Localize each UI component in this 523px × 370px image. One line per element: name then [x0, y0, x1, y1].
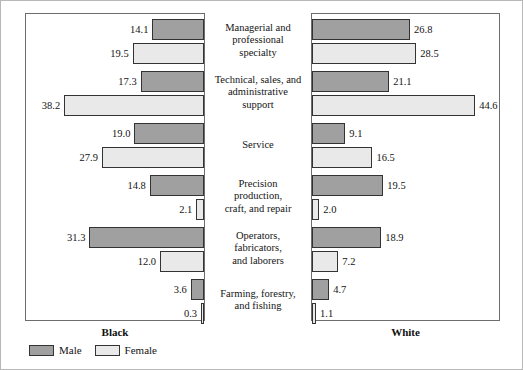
value-label-black-female-3: 38.2 [42, 95, 60, 116]
value-label-black-male-4: 19.0 [112, 123, 130, 144]
value-label-white-female-5: 16.5 [376, 147, 394, 168]
category-label-4-line-2: and laborers [205, 255, 311, 267]
bar-black-male-2 [141, 71, 204, 92]
category-label-1-line-0: Technical, sales, and [205, 74, 311, 86]
category-label-0-line-2: specialty [205, 47, 311, 59]
category-label-2: Service [205, 139, 311, 151]
bar-white-male-6 [312, 175, 383, 196]
bar-black-male-0 [152, 19, 204, 40]
panel-black: 14.119.517.338.219.027.914.82.131.312.03… [25, 13, 205, 321]
value-label-white-female-11: 1.1 [320, 303, 333, 324]
value-label-white-female-1: 28.5 [420, 43, 438, 64]
group-title-white: White [311, 326, 500, 338]
value-label-white-female-3: 44.6 [479, 95, 497, 116]
value-label-black-male-2: 17.3 [118, 71, 136, 92]
category-label-2-line-0: Service [205, 139, 311, 151]
bar-white-male-10 [312, 279, 329, 300]
value-label-black-female-11: 0.3 [184, 303, 197, 324]
category-label-0: Managerial andprofessionalspecialty [205, 22, 311, 59]
legend-item-male: Male [29, 344, 82, 356]
legend-label-male: Male [59, 344, 82, 356]
value-label-black-male-8: 31.3 [67, 227, 85, 248]
legend-swatch-female [95, 345, 120, 356]
category-label-5-line-1: and fishing [205, 300, 311, 312]
legend: Male Female [29, 344, 157, 356]
bar-black-female-7 [196, 199, 204, 220]
value-label-white-male-0: 26.8 [414, 19, 432, 40]
category-label-4-line-0: Operators, [205, 230, 311, 242]
value-label-black-male-6: 14.8 [127, 175, 145, 196]
bar-black-male-4 [134, 123, 204, 144]
category-label-4: Operators,fabricators,and laborers [205, 230, 311, 267]
group-title-black: Black [25, 326, 205, 338]
value-label-black-female-7: 2.1 [179, 199, 192, 220]
bar-white-female-7 [312, 199, 319, 220]
bar-black-female-9 [160, 251, 204, 272]
value-label-white-male-4: 9.1 [349, 123, 362, 144]
legend-swatch-male [29, 345, 54, 356]
bar-black-male-8 [89, 227, 204, 248]
panel-white: 26.828.521.144.69.116.519.52.018.97.24.7… [311, 13, 500, 321]
plot-area-black: 14.119.517.338.219.027.914.82.131.312.03… [26, 14, 204, 320]
value-label-black-male-0: 14.1 [130, 19, 148, 40]
bar-white-male-2 [312, 71, 389, 92]
chart-figure: 14.119.517.338.219.027.914.82.131.312.03… [0, 0, 523, 370]
value-label-black-female-5: 27.9 [80, 147, 98, 168]
bar-black-female-3 [64, 95, 204, 116]
category-label-1-line-2: support [205, 99, 311, 111]
legend-label-female: Female [125, 344, 157, 356]
value-label-black-female-9: 12.0 [138, 251, 156, 272]
bar-black-female-5 [102, 147, 204, 168]
bar-black-female-1 [133, 43, 204, 64]
bar-black-male-6 [150, 175, 204, 196]
bar-black-male-10 [191, 279, 204, 300]
category-label-5: Farming, forestry,and fishing [205, 288, 311, 313]
bar-black-female-11 [201, 303, 204, 324]
bar-white-male-4 [312, 123, 345, 144]
category-label-3: Precisionproduction,craft, and repair [205, 178, 311, 215]
category-label-1: Technical, sales, andadministrativesuppo… [205, 74, 311, 111]
value-label-white-male-8: 18.9 [385, 227, 403, 248]
category-label-0-line-0: Managerial and [205, 22, 311, 34]
bar-white-female-11 [312, 303, 316, 324]
value-label-black-male-10: 3.6 [174, 279, 187, 300]
value-label-white-male-10: 4.7 [333, 279, 346, 300]
category-label-column: Managerial andprofessionalspecialtyTechn… [205, 13, 311, 321]
value-label-white-male-2: 21.1 [393, 71, 411, 92]
category-label-5-line-0: Farming, forestry, [205, 288, 311, 300]
value-label-white-female-9: 7.2 [342, 251, 355, 272]
value-label-white-female-7: 2.0 [323, 199, 336, 220]
category-label-0-line-1: professional [205, 34, 311, 46]
value-label-white-male-6: 19.5 [387, 175, 405, 196]
bar-white-female-5 [312, 147, 372, 168]
category-label-4-line-1: fabricators, [205, 242, 311, 254]
bar-white-male-0 [312, 19, 410, 40]
category-label-3-line-2: craft, and repair [205, 203, 311, 215]
category-label-3-line-1: production, [205, 190, 311, 202]
bar-white-male-8 [312, 227, 381, 248]
bar-white-female-9 [312, 251, 338, 272]
legend-item-female: Female [95, 344, 157, 356]
value-label-black-female-1: 19.5 [110, 43, 128, 64]
plot-area-white: 26.828.521.144.69.116.519.52.018.97.24.7… [312, 14, 499, 320]
category-label-1-line-1: administrative [205, 86, 311, 98]
bar-white-female-3 [312, 95, 475, 116]
bar-white-female-1 [312, 43, 416, 64]
category-label-3-line-0: Precision [205, 178, 311, 190]
